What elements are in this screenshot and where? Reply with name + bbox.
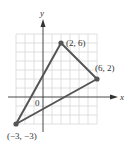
point-2-6 <box>58 40 63 45</box>
x-axis-arrow-icon <box>110 95 118 100</box>
point-label-2-6: (2, 6) <box>66 38 86 48</box>
x-axis-label: x <box>119 92 124 102</box>
triangle <box>16 43 97 124</box>
point-neg3-neg3 <box>13 121 18 126</box>
y-axis-arrow-icon <box>41 19 46 27</box>
origin-label: 0 <box>35 98 40 108</box>
y-axis-label: y <box>39 8 44 18</box>
point-label-neg3-neg3: (−3, −3) <box>7 131 37 141</box>
point-6-2 <box>94 76 99 81</box>
coordinate-plane-diagram: x y 0 (2, 6) (6, 2) (−3, −3) <box>0 0 135 150</box>
point-label-6-2: (6, 2) <box>95 63 115 73</box>
